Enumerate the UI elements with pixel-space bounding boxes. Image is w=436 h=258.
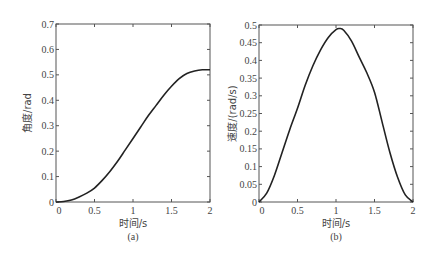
y-tick-label: 0 [49, 197, 54, 208]
x-tick-label: 2 [411, 205, 416, 216]
series-line-velocity [259, 28, 413, 202]
y-tick-label: 0.5 [42, 69, 55, 80]
figure: 00.10.20.30.40.50.60.700.511.52时间/s(a)角度… [0, 0, 436, 258]
x-tick-label: 2 [208, 205, 213, 216]
x-tick-label: 0.5 [291, 205, 304, 216]
y-tick-label: 0.4 [245, 55, 258, 66]
chart-a-angle: 00.10.20.30.40.50.60.700.511.52时间/s(a)角度… [21, 19, 213, 244]
y-axis-label: 角度/rad [21, 93, 33, 133]
y-tick-label: 0.05 [240, 179, 258, 190]
x-axis-label: 时间/s [119, 217, 148, 229]
y-tick-label: 0.1 [42, 171, 55, 182]
y-tick-label: 0.2 [245, 126, 258, 137]
y-tick-label: 0.1 [245, 161, 258, 172]
x-tick-label: 0 [260, 205, 265, 216]
y-tick-label: 0.6 [42, 44, 55, 55]
y-tick-label: 0.7 [42, 19, 55, 30]
plot-frame [56, 24, 210, 202]
y-tick-label: 0.4 [42, 95, 55, 106]
y-tick-label: 0.45 [240, 37, 258, 48]
y-tick-label: 0.35 [240, 73, 258, 84]
y-tick-label: 0.2 [42, 146, 55, 157]
chart-b-velocity: 00.050.10.150.20.250.30.350.40.450.500.5… [226, 20, 416, 244]
y-tick-label: 0.3 [245, 90, 258, 101]
x-tick-label: 1.5 [165, 205, 178, 216]
y-tick-label: 0.25 [240, 108, 258, 119]
x-tick-label: 0.5 [88, 205, 101, 216]
y-tick-label: 0.5 [245, 20, 258, 31]
y-tick-label: 0.15 [240, 143, 258, 154]
x-tick-label: 1 [334, 205, 339, 216]
subfigure-caption: (b) [330, 231, 342, 243]
y-axis-label: 速度/(rad/s) [226, 85, 238, 141]
x-tick-label: 0 [57, 205, 62, 216]
y-tick-label: 0.3 [42, 120, 55, 131]
x-axis-label: 时间/s [322, 217, 351, 229]
plot-frame [259, 25, 413, 202]
series-line-angle [56, 70, 210, 202]
x-tick-label: 1 [131, 205, 136, 216]
subfigure-caption: (a) [127, 231, 138, 243]
x-tick-label: 1.5 [368, 205, 381, 216]
y-tick-label: 0 [252, 197, 257, 208]
